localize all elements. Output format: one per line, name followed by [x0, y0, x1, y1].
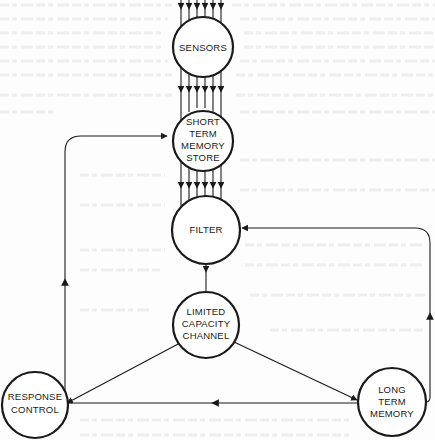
label-sensors: SENSORS	[179, 42, 227, 53]
label-response-line2: CONTROL	[11, 404, 59, 415]
label-lcc-line1: LIMITED	[187, 306, 226, 317]
label-stm-line3: MEMORY	[181, 140, 225, 151]
ltm-to-filter-arrow	[426, 316, 430, 402]
flow-diagram: SENSORS SHORT TERM MEMORY STORE FILTER L…	[0, 0, 435, 440]
label-ltm-line3: MEMORY	[370, 408, 414, 419]
label-lcc-line3: CHANNEL	[183, 330, 230, 341]
label-stm-line4: STORE	[186, 152, 220, 163]
label-ltm-line1: LONG	[378, 384, 406, 395]
channel-to-ltm-arrow	[234, 342, 357, 400]
label-filter: FILTER	[189, 224, 222, 235]
label-stm-line1: SHORT	[186, 116, 220, 127]
label-lcc-line2: CAPACITY	[182, 318, 231, 329]
channel-to-response-arrow	[67, 343, 180, 403]
label-stm-line2: TERM	[189, 128, 217, 139]
label-ltm-line2: TERM	[378, 396, 406, 407]
label-response-line1: RESPONSE	[8, 391, 62, 402]
page: SENSORS SHORT TERM MEMORY STORE FILTER L…	[0, 0, 435, 440]
